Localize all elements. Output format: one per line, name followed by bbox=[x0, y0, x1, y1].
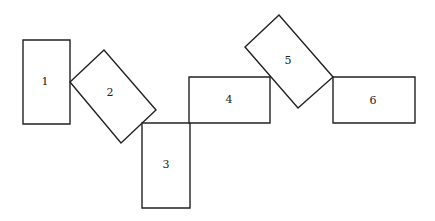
face-4: 4 bbox=[189, 77, 270, 123]
face-6: 6 bbox=[333, 77, 415, 123]
cube-net-diagram: 1 2 3 4 5 6 bbox=[0, 0, 435, 221]
face-5-label: 5 bbox=[285, 54, 292, 67]
face-4-label: 4 bbox=[226, 93, 233, 106]
face-1: 1 bbox=[23, 40, 70, 124]
face-3-label: 3 bbox=[163, 158, 170, 171]
face-2-label: 2 bbox=[107, 86, 114, 99]
face-3: 3 bbox=[142, 123, 190, 208]
face-1-label: 1 bbox=[42, 75, 49, 88]
face-6-label: 6 bbox=[370, 94, 377, 107]
